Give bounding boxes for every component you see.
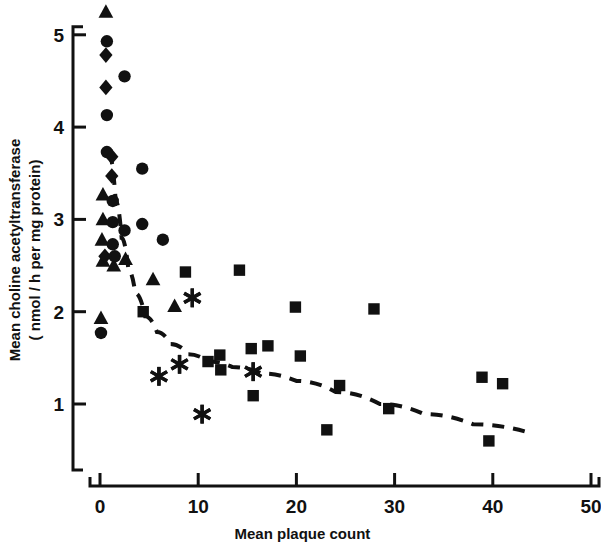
y-axis-title-line2: ( nmol / h per mg protein) — [26, 160, 43, 341]
data-point-circle — [101, 35, 113, 47]
data-point-triangle — [146, 272, 161, 286]
data-point-square — [262, 340, 273, 351]
fitted-decay-curve — [109, 153, 532, 434]
data-point-diamond — [105, 168, 118, 184]
x-axis-tick-label: 30 — [384, 496, 405, 517]
data-point-square — [214, 349, 225, 360]
data-point-triangle — [167, 299, 182, 313]
axis-labels: Mean plaque countMean choline acetyltran… — [6, 139, 370, 542]
data-point-triangle — [94, 311, 109, 325]
x-axis-tick-label: 0 — [95, 496, 106, 517]
x-axis-tick-label: 50 — [580, 496, 601, 517]
data-point-square — [368, 303, 379, 314]
x-axis-title: Mean plaque count — [234, 525, 370, 542]
y-axis-tick-label: 2 — [53, 302, 64, 323]
data-point-square — [483, 435, 494, 446]
data-point-square — [180, 266, 191, 277]
chart-svg: 1234501020304050 Mean plaque countMean c… — [0, 0, 601, 554]
data-point-square — [321, 424, 332, 435]
data-point-diamond — [99, 80, 112, 96]
x-axis-tick-label: 10 — [188, 496, 209, 517]
data-point-square — [334, 380, 345, 391]
data-point-circle — [107, 195, 119, 207]
data-point-circle — [118, 224, 130, 236]
data-point-square — [246, 343, 257, 354]
data-point-circle — [95, 327, 107, 339]
y-axis-tick-label: 1 — [53, 394, 64, 415]
data-point-diamond — [99, 47, 112, 63]
data-point-square — [247, 390, 258, 401]
data-point-triangle — [99, 4, 114, 18]
data-point-circle — [107, 216, 119, 228]
data-point-square — [290, 301, 301, 312]
data-point-asterisk — [171, 355, 187, 374]
y-axis-title-line1: Mean choline acetyltransferase — [6, 139, 23, 362]
fitted-curve — [109, 153, 532, 434]
series-diamond — [98, 47, 118, 264]
y-axis-tick-label: 3 — [53, 209, 64, 230]
data-point-asterisk — [184, 288, 200, 307]
data-point-square — [476, 372, 487, 383]
data-point-square — [497, 378, 508, 389]
data-point-circle — [136, 218, 148, 230]
data-point-circle — [136, 162, 148, 174]
x-axis-spine — [90, 477, 599, 486]
data-point-square — [138, 306, 149, 317]
data-point-square — [383, 403, 394, 414]
data-point-asterisk — [151, 367, 167, 386]
data-point-square — [202, 356, 213, 367]
axes: 1234501020304050 — [53, 25, 601, 517]
data-point-circle — [101, 109, 113, 121]
x-axis-tick-label: 20 — [286, 496, 307, 517]
y-axis-tick-label: 4 — [53, 117, 64, 138]
data-point-square — [295, 350, 306, 361]
data-point-square — [215, 364, 226, 375]
data-point-circle — [118, 70, 130, 82]
y-axis-tick-label: 5 — [53, 25, 64, 46]
data-point-asterisk — [194, 405, 210, 424]
chart-figure: 1234501020304050 Mean plaque countMean c… — [0, 0, 601, 554]
data-point-square — [234, 264, 245, 275]
x-axis-tick-label: 40 — [482, 496, 503, 517]
data-point-circle — [157, 234, 169, 246]
data-point-circle — [107, 238, 119, 250]
